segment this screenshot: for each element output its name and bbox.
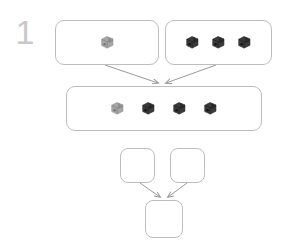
- empty-group-right[interactable]: [170, 148, 205, 183]
- merged-group[interactable]: [66, 86, 262, 131]
- cube-icon: [236, 34, 253, 51]
- cube-icon: [184, 34, 201, 51]
- cube-icon: [140, 100, 157, 117]
- cube-icon: [99, 34, 116, 51]
- cube-icon: [202, 100, 219, 117]
- icon-row-source-right: [184, 34, 253, 51]
- source-group-right[interactable]: [165, 20, 272, 65]
- empty-group-left[interactable]: [120, 148, 155, 183]
- empty-merged-group[interactable]: [145, 200, 183, 238]
- edge-source-left-to-merged: [105, 65, 158, 83]
- cube-icon: [171, 100, 188, 117]
- source-group-left[interactable]: [55, 20, 159, 65]
- cube-icon: [109, 100, 126, 117]
- step-number: 1: [10, 12, 40, 52]
- edge-empty-left-to-merged: [140, 183, 160, 197]
- edge-empty-right-to-merged: [168, 183, 187, 197]
- edge-source-right-to-merged: [166, 65, 216, 83]
- icon-row-source-left: [99, 34, 116, 51]
- diagram-canvas: 1: [0, 0, 290, 249]
- icon-row-merged: [109, 100, 219, 117]
- cube-icon: [210, 34, 227, 51]
